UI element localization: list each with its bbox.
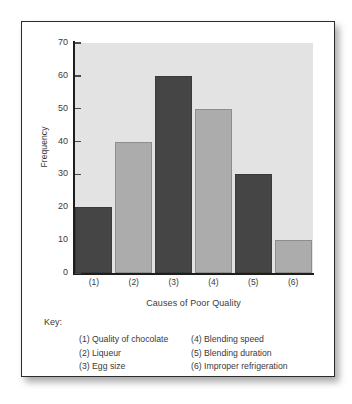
y-axis-tick-label: 70 bbox=[34, 38, 68, 47]
y-axis-tick-label: 60 bbox=[34, 71, 68, 80]
x-axis-tick-label: (4) bbox=[194, 278, 234, 287]
y-axis-tick bbox=[75, 108, 81, 109]
bar bbox=[115, 142, 152, 273]
bar bbox=[275, 240, 312, 273]
y-axis-tick bbox=[75, 141, 81, 142]
bar bbox=[75, 207, 112, 273]
key-entry: (6) Improper refrigeration bbox=[191, 360, 326, 374]
x-axis-tick-label: (2) bbox=[114, 278, 154, 287]
key-column-right: (4) Blending speed(5) Blending duration(… bbox=[191, 333, 326, 374]
bar-chart: Frequency 706050403020100 (1)(2)(3)(4)(5… bbox=[22, 22, 336, 378]
key-entry: (5) Blending duration bbox=[191, 347, 326, 361]
y-axis-tick-label: 30 bbox=[34, 169, 68, 178]
y-axis-tick-label: 20 bbox=[34, 202, 68, 211]
x-axis-line bbox=[73, 273, 314, 275]
key-label: Key: bbox=[44, 317, 62, 327]
figure-card: Frequency 706050403020100 (1)(2)(3)(4)(5… bbox=[21, 21, 335, 377]
x-axis-title: Causes of Poor Quality bbox=[74, 298, 313, 308]
bar bbox=[235, 174, 272, 273]
key-entry: (1) Quality of chocolate bbox=[79, 333, 199, 347]
key-entry: (4) Blending speed bbox=[191, 333, 326, 347]
y-axis-tick-label: 10 bbox=[34, 235, 68, 244]
bar bbox=[195, 109, 232, 273]
y-axis-tick-label: 0 bbox=[34, 268, 68, 277]
key-entry: (2) Liqueur bbox=[79, 347, 199, 361]
x-axis-tick-label: (6) bbox=[273, 278, 313, 287]
key-entry: (3) Egg size bbox=[79, 360, 199, 374]
x-axis-tick-label: (3) bbox=[154, 278, 194, 287]
y-axis-tick bbox=[75, 174, 81, 175]
y-axis-tick-label: 40 bbox=[34, 137, 68, 146]
key-column-left: (1) Quality of chocolate(2) Liqueur(3) E… bbox=[79, 333, 199, 374]
bar bbox=[155, 76, 192, 273]
x-axis-tick-label: (5) bbox=[233, 278, 273, 287]
x-axis-tick-label: (1) bbox=[74, 278, 114, 287]
y-axis-tick-label: 50 bbox=[34, 104, 68, 113]
y-axis-tick bbox=[75, 75, 81, 76]
y-axis-tick bbox=[75, 42, 81, 43]
